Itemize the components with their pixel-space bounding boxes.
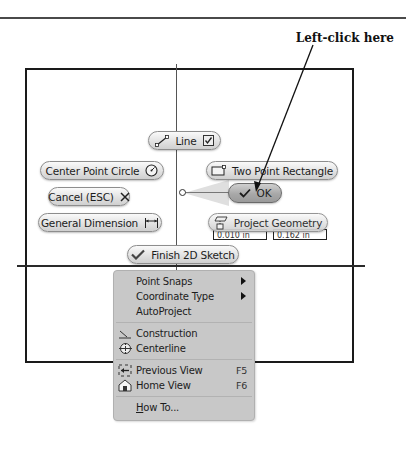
callout-arrow-icon xyxy=(0,0,406,450)
